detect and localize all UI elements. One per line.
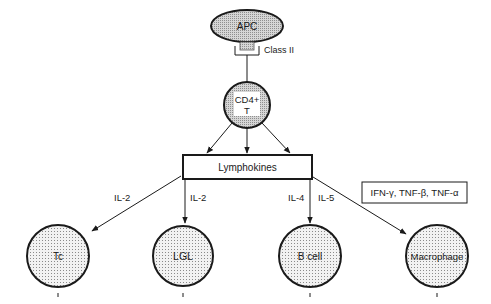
cd4-label-line2: T: [244, 105, 250, 116]
cd4-t-node: CD4+ T: [224, 82, 270, 128]
apc-node: APC: [211, 10, 283, 42]
bcell-cell: B cell: [279, 225, 341, 297]
class-ii-receptor: Class II: [235, 42, 294, 82]
arrow-to-tc: [92, 176, 181, 231]
macrophage-cell: Macrophage: [406, 225, 468, 297]
tc-cell: Tc: [27, 225, 89, 297]
cd4-label-line1: CD4+: [235, 94, 260, 105]
lgl-label: LGL: [173, 250, 193, 262]
tc-label: Tc: [53, 251, 63, 262]
lymphokines-node: Lymphokines: [183, 155, 312, 179]
class-ii-molecule: [240, 42, 254, 50]
cd4-arrow-right: [262, 123, 290, 153]
cytokine-box-label: IFN-γ, TNF-β, TNF-α: [371, 187, 459, 198]
cytokine-box-node: IFN-γ, TNF-β, TNF-α: [362, 182, 467, 203]
cd4-arrow-left: [207, 123, 232, 153]
bcell-label: B cell: [298, 251, 322, 262]
apc-label: APC: [237, 21, 258, 32]
edge-label-lgl: IL-2: [190, 192, 206, 203]
lymphokines-label: Lymphokines: [218, 162, 277, 173]
edge-label-bcell-il5: IL-5: [318, 192, 334, 203]
class-ii-label: Class II: [264, 45, 294, 55]
immune-diagram: APC Class II CD4+ T Lymphokines IL-2 IL-…: [0, 0, 491, 304]
edge-label-tc: IL-2: [114, 192, 130, 203]
macrophage-label: Macrophage: [411, 251, 464, 262]
lgl-cell: LGL: [153, 226, 213, 297]
edge-label-bcell-il4: IL-4: [288, 192, 304, 203]
